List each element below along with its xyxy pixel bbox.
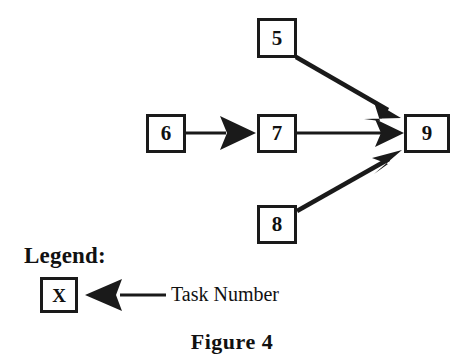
legend-title: Legend: — [24, 243, 106, 269]
task-node-9-label: 9 — [422, 123, 433, 144]
task-node-5-label: 5 — [272, 28, 283, 49]
edge-5-to-9 — [296, 57, 401, 121]
edge-7-to-9 — [297, 119, 404, 147]
task-node-8[interactable]: 8 — [257, 205, 297, 244]
task-node-6[interactable]: 6 — [146, 114, 186, 153]
legend-pointer-caption: Task Number — [171, 283, 279, 306]
edge-8-to-9 — [297, 150, 402, 211]
task-node-8-label: 8 — [272, 214, 283, 235]
figure-container: 5 6 7 8 9 Legend: X Task Number Figure 4 — [0, 0, 464, 364]
edge-6-to-7 — [186, 116, 256, 150]
figure-caption: Figure 4 — [0, 329, 464, 355]
task-node-7-label: 7 — [272, 123, 283, 144]
task-node-5[interactable]: 5 — [257, 18, 297, 58]
legend-pointer-arrow — [85, 279, 166, 311]
task-node-7[interactable]: 7 — [257, 114, 297, 153]
legend-sample-box: X — [40, 277, 78, 313]
task-node-9[interactable]: 9 — [404, 114, 450, 153]
legend-sample-box-label: X — [52, 286, 66, 305]
task-node-6-label: 6 — [161, 123, 172, 144]
